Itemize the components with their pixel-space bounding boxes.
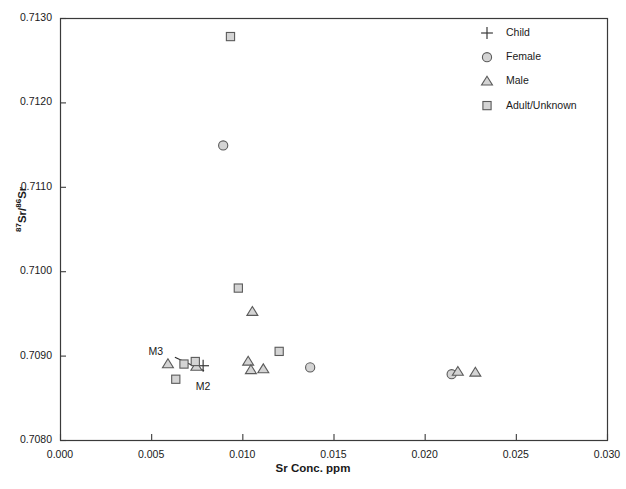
y-axis-title: 87Sr/86Sr xyxy=(14,187,28,232)
data-point-square xyxy=(234,284,242,292)
legend-label-female: Female xyxy=(506,50,541,62)
x-axis-tick-label: 0.000 xyxy=(37,448,83,460)
annotation-m2: M2 xyxy=(196,380,211,392)
series-male xyxy=(162,307,480,377)
data-point-square xyxy=(226,32,234,40)
y-axis-tick-label: 0.7110 xyxy=(4,180,52,192)
y-axis-tick-label: 0.7120 xyxy=(4,95,52,107)
x-axis-tick-label: 0.005 xyxy=(128,448,174,460)
legend-label-adult-unknown: Adult/Unknown xyxy=(506,99,577,111)
data-point-triangle xyxy=(245,365,256,374)
data-point-triangle xyxy=(258,364,269,373)
y-axis-mid-text: Sr/ xyxy=(16,208,28,223)
data-point-circle xyxy=(306,363,315,372)
scatter-plot-figure: 0.70800.70900.71000.71100.71200.71300.00… xyxy=(0,0,626,489)
data-point-square xyxy=(180,360,188,368)
legend-marker-male xyxy=(482,76,493,85)
legend-marker-child xyxy=(481,27,493,39)
y-axis-tick-label: 0.7100 xyxy=(4,264,52,276)
series-adult-unknown xyxy=(172,32,284,383)
annotation-m3: M3 xyxy=(148,345,163,357)
data-point-triangle xyxy=(243,356,254,365)
data-point-triangle xyxy=(470,367,481,376)
x-axis-tick-label: 0.010 xyxy=(219,448,265,460)
data-point-circle xyxy=(219,141,228,150)
data-point-triangle xyxy=(482,76,493,85)
y-axis-tail-text: Sr xyxy=(16,187,28,199)
y-axis-superscript-87: 87 xyxy=(14,223,23,232)
plot-canvas xyxy=(0,0,626,489)
legend-label-child: Child xyxy=(506,26,530,38)
legend-label-male: Male xyxy=(506,74,529,86)
x-axis-title: Sr Conc. ppm xyxy=(0,462,626,474)
series-female xyxy=(219,141,457,379)
data-point-square xyxy=(172,375,180,383)
legend-marker-adult-unknown xyxy=(483,102,491,110)
y-axis-tick-label: 0.7080 xyxy=(4,433,52,445)
data-point-square xyxy=(483,102,491,110)
data-point-triangle xyxy=(247,307,258,316)
data-point-square xyxy=(275,347,283,355)
y-axis-tick-label: 0.7130 xyxy=(4,11,52,23)
y-axis-tick-label: 0.7090 xyxy=(4,349,52,361)
data-point-square xyxy=(191,357,199,365)
legend-marker-female xyxy=(482,53,491,62)
x-axis-tick-label: 0.020 xyxy=(402,448,448,460)
data-point-circle xyxy=(482,53,491,62)
x-axis-tick-label: 0.030 xyxy=(584,448,626,460)
x-axis-tick-label: 0.025 xyxy=(493,448,539,460)
y-axis-superscript-86: 86 xyxy=(14,199,23,208)
data-point-triangle xyxy=(162,359,173,368)
x-axis-tick-label: 0.015 xyxy=(311,448,357,460)
data-point-plus xyxy=(481,27,493,39)
